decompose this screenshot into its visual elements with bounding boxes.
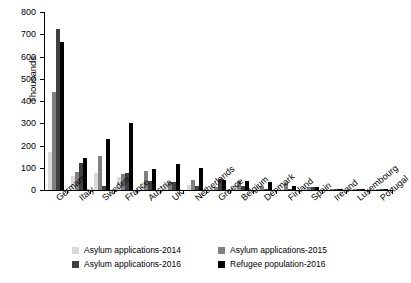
legend-swatch-icon [218,261,225,268]
y-axis-line [44,12,45,190]
legend-label: Asylum applications-2016 [84,260,181,269]
chart-legend: Asylum applications-2014Asylum applicati… [72,246,372,274]
bar-group [210,12,226,190]
y-tick-mark [40,146,44,147]
legend-row: Asylum applications-2014Asylum applicati… [72,246,372,255]
bar-group [187,12,203,190]
y-tick-label: 800 [10,8,36,17]
y-tick-label: 0 [10,186,36,195]
bar-group [372,12,388,190]
y-tick-mark [40,12,44,13]
legend-item: Refugee population-2016 [218,260,364,269]
bar [60,42,64,190]
legend-label: Refugee population-2016 [230,260,325,269]
legend-row: Asylum applications-2016Refugee populati… [72,260,372,269]
y-tick-mark [40,79,44,80]
bar-group [280,12,296,190]
bar-group [303,12,319,190]
plot-area: 0100200300400500600700800 Thousands [44,12,392,190]
legend-swatch-icon [72,261,79,268]
bar-group [48,12,64,190]
bar-group [164,12,180,190]
bar-group [256,12,272,190]
y-tick-label: 200 [10,142,36,151]
bar-group [71,12,87,190]
legend-label: Asylum applications-2015 [230,246,327,255]
bar-group [117,12,133,190]
bar-group [349,12,365,190]
y-tick-mark [40,34,44,35]
bar-group [233,12,249,190]
legend-item: Asylum applications-2016 [72,260,218,269]
y-tick-mark [40,101,44,102]
legend-label: Asylum applications-2014 [84,246,181,255]
y-tick-mark [40,190,44,191]
bar [106,139,110,190]
bar-group [140,12,156,190]
legend-swatch-icon [72,247,79,254]
y-tick-mark [40,57,44,58]
bar-group [94,12,110,190]
bar-group [326,12,342,190]
y-axis-title: Thousands [27,35,38,125]
legend-item: Asylum applications-2015 [218,246,364,255]
legend-item: Asylum applications-2014 [72,246,218,255]
y-tick-label: 100 [10,164,36,173]
y-tick-mark [40,123,44,124]
legend-swatch-icon [218,247,225,254]
y-tick-mark [40,168,44,169]
